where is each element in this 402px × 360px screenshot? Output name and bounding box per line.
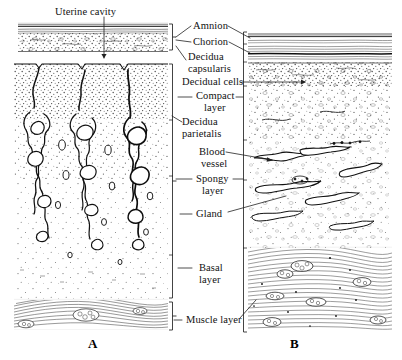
leader-amnion-a <box>176 26 191 37</box>
label-spongy-layer-l2: layer <box>202 185 224 197</box>
panel-a-parietalis <box>14 62 168 300</box>
label-spongy-layer-l1: Spongy <box>196 173 229 185</box>
bracket-a-muscle <box>169 302 177 330</box>
label-amnion: Amnion <box>193 20 228 32</box>
label-uterine-cavity: Uterine cavity <box>55 6 116 18</box>
panel-a-membrane <box>18 22 168 52</box>
panel-b-muscle-layer <box>248 245 392 332</box>
label-decidual-cells: Decidual cells <box>182 76 243 88</box>
panel-b-amnion <box>248 32 392 44</box>
panel-a-muscle <box>14 296 168 330</box>
label-decidua-parietalis-l2: parietalis <box>182 128 221 140</box>
bracket-b-full <box>244 32 248 332</box>
label-decidua-parietalis-l1: Decidua <box>182 116 218 128</box>
label-compact-layer-l2: layer <box>204 102 226 114</box>
label-blood-vessel-l1: Blood <box>199 146 225 158</box>
panel-b-chorion <box>248 44 392 62</box>
panel-b-spongy-layer <box>248 140 392 248</box>
leader-decidua-parietalis <box>172 116 182 122</box>
panel-letter-a: A <box>88 336 97 352</box>
label-chorion: Chorion <box>193 36 228 48</box>
label-basal-layer-l2: layer <box>199 274 221 286</box>
label-muscle-layer: Muscle layer <box>186 314 242 326</box>
label-decidua-capsularis-l1: Decidua <box>188 51 224 63</box>
leader-chorion-a <box>176 40 191 42</box>
panel-b-compact-layer <box>248 86 392 140</box>
panel-letter-b: B <box>290 336 299 352</box>
label-basal-layer-l1: Basal <box>199 262 223 274</box>
bracket-a-decidua <box>169 64 177 298</box>
decidua-histology-figure: Uterine cavity Amnion Chorion Decidua ca… <box>0 0 402 360</box>
label-gland: Gland <box>196 208 222 220</box>
label-compact-layer-l1: Compact <box>196 90 235 102</box>
leader-decidua-capsularis <box>176 46 186 60</box>
label-blood-vessel-l2: vessel <box>201 158 227 170</box>
bracket-a-membrane <box>169 24 176 50</box>
label-decidua-capsularis-l2: capsularis <box>188 63 231 75</box>
